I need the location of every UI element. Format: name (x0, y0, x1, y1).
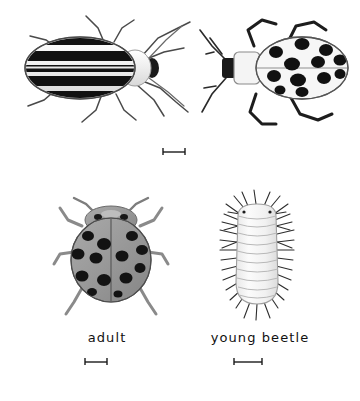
illustration-plate: adult young beetle (0, 0, 360, 401)
figure-spotted-cucumber-beetle (192, 8, 360, 148)
scale-bar-adult (82, 356, 114, 370)
label-adult: adult (72, 330, 142, 345)
scale-bar-top (160, 146, 192, 160)
scale-bar-young-beetle (231, 356, 269, 370)
figure-striped-cucumber-beetle (18, 8, 198, 148)
figure-young-beetle-larva (208, 190, 308, 326)
label-young-beetle: young beetle (202, 330, 318, 345)
figure-adult-lady-beetle (52, 192, 172, 324)
